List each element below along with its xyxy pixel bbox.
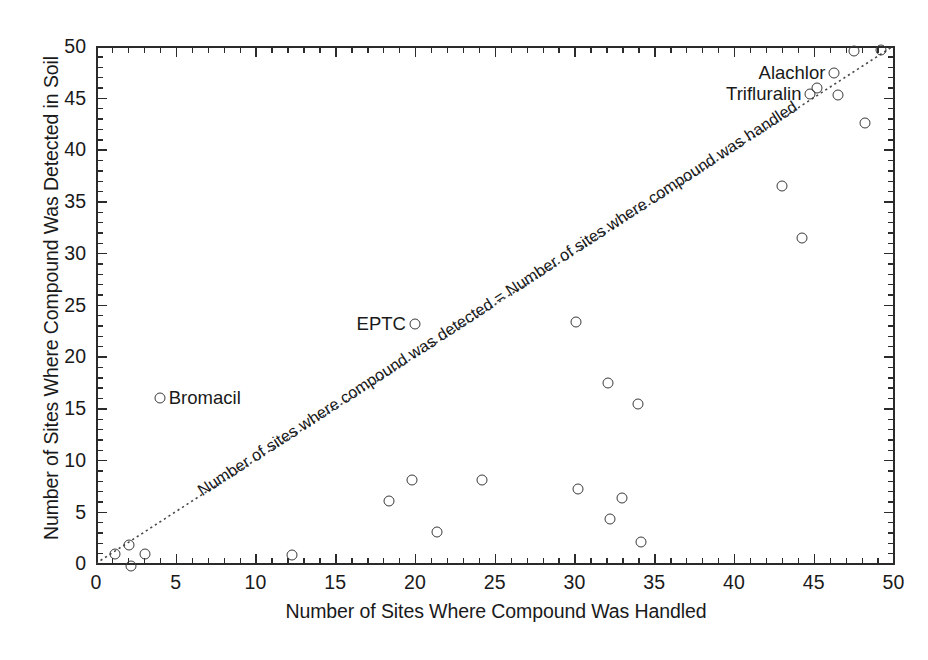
y-major-tick xyxy=(98,512,107,513)
y-major-tick xyxy=(98,563,107,564)
data-point xyxy=(476,474,487,485)
x-minor-tick xyxy=(208,558,209,563)
y-minor-tick xyxy=(98,501,103,502)
point-label-bromacil: Bromacil xyxy=(169,387,241,409)
y-minor-tick-right xyxy=(888,491,893,492)
x-minor-tick xyxy=(463,558,464,563)
x-minor-tick xyxy=(718,558,719,563)
y-minor-tick-right xyxy=(888,439,893,440)
x-minor-tick-top xyxy=(144,48,145,53)
x-major-tick xyxy=(255,554,256,563)
y-major-tick-right xyxy=(884,512,893,513)
y-minor-tick-right xyxy=(888,522,893,523)
x-minor-tick-top xyxy=(622,48,623,53)
x-minor-tick xyxy=(367,558,368,563)
y-minor-tick xyxy=(98,139,103,140)
x-major-tick-top xyxy=(255,48,256,57)
identity-line-annotation: Number of sites where compound was detec… xyxy=(194,97,801,500)
x-minor-tick-top xyxy=(240,48,241,53)
x-major-tick xyxy=(734,554,735,563)
x-minor-tick xyxy=(351,558,352,563)
data-point xyxy=(811,83,822,94)
y-minor-tick xyxy=(98,419,103,420)
data-point xyxy=(636,536,647,547)
x-tick-label: 15 xyxy=(324,571,346,594)
x-major-tick-top xyxy=(495,48,496,57)
x-major-tick xyxy=(96,554,97,563)
y-minor-tick xyxy=(98,212,103,213)
x-minor-tick-top xyxy=(798,48,799,53)
x-minor-tick-top xyxy=(766,48,767,53)
x-minor-tick xyxy=(431,558,432,563)
y-minor-tick xyxy=(98,398,103,399)
y-minor-tick xyxy=(98,543,103,544)
y-minor-tick xyxy=(98,294,103,295)
x-minor-tick-top xyxy=(527,48,528,53)
x-axis-label: Number of Sites Where Compound Was Handl… xyxy=(96,600,896,623)
x-minor-tick-top xyxy=(319,48,320,53)
y-minor-tick xyxy=(98,87,103,88)
x-major-tick xyxy=(495,554,496,563)
x-minor-tick xyxy=(830,558,831,563)
y-minor-tick xyxy=(98,522,103,523)
data-point xyxy=(154,392,165,403)
y-tick-label: 20 xyxy=(38,345,86,368)
x-tick-label: 35 xyxy=(643,571,665,594)
y-tick-label: 0 xyxy=(38,552,86,575)
y-minor-tick-right xyxy=(888,87,893,88)
y-minor-tick-right xyxy=(888,429,893,430)
y-minor-tick-right xyxy=(888,336,893,337)
y-minor-tick-right xyxy=(888,243,893,244)
x-minor-tick-top xyxy=(479,48,480,53)
data-point xyxy=(602,378,613,389)
x-minor-tick-top xyxy=(112,48,113,53)
y-minor-tick-right xyxy=(888,67,893,68)
x-minor-tick xyxy=(766,558,767,563)
data-point xyxy=(797,233,808,244)
x-minor-tick xyxy=(782,558,783,563)
y-minor-tick-right xyxy=(888,160,893,161)
x-minor-tick xyxy=(224,558,225,563)
y-minor-tick xyxy=(98,222,103,223)
x-minor-tick-top xyxy=(846,48,847,53)
y-tick-label: 35 xyxy=(38,190,86,213)
x-minor-tick-top xyxy=(431,48,432,53)
x-minor-tick-top xyxy=(782,48,783,53)
data-point xyxy=(126,560,137,571)
x-minor-tick-top xyxy=(192,48,193,53)
x-major-tick-top xyxy=(893,48,894,57)
y-minor-tick xyxy=(98,377,103,378)
y-minor-tick-right xyxy=(888,398,893,399)
x-minor-tick-top xyxy=(638,48,639,53)
x-major-tick-top xyxy=(176,48,177,57)
y-major-tick xyxy=(98,305,107,306)
y-major-tick-right xyxy=(884,408,893,409)
x-minor-tick xyxy=(160,558,161,563)
x-minor-tick xyxy=(590,558,591,563)
y-minor-tick xyxy=(98,439,103,440)
x-major-tick xyxy=(654,554,655,563)
scatter-plot-figure: Number of Sites Where Compound Was Detec… xyxy=(0,0,928,660)
data-point xyxy=(604,513,615,524)
y-minor-tick xyxy=(98,491,103,492)
x-minor-tick-top xyxy=(718,48,719,53)
y-tick-label: 30 xyxy=(38,241,86,264)
x-minor-tick-top xyxy=(399,48,400,53)
data-point xyxy=(617,493,628,504)
x-minor-tick-top xyxy=(830,48,831,53)
y-minor-tick xyxy=(98,315,103,316)
x-minor-tick xyxy=(670,558,671,563)
y-major-tick xyxy=(98,253,107,254)
x-major-tick-top xyxy=(734,48,735,57)
x-minor-tick xyxy=(240,558,241,563)
y-minor-tick-right xyxy=(888,387,893,388)
x-minor-tick xyxy=(543,558,544,563)
x-minor-tick-top xyxy=(383,48,384,53)
y-minor-tick-right xyxy=(888,543,893,544)
x-minor-tick xyxy=(846,558,847,563)
y-major-tick xyxy=(98,46,107,47)
y-minor-tick-right xyxy=(888,346,893,347)
x-minor-tick xyxy=(447,558,448,563)
y-major-tick xyxy=(98,201,107,202)
y-minor-tick xyxy=(98,77,103,78)
